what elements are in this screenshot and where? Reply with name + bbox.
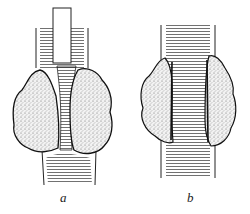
panel-a-label: a	[60, 190, 67, 206]
panel-a-illustration	[0, 0, 125, 214]
panel-b-label: b	[187, 190, 194, 206]
panel-b-illustration	[125, 0, 250, 214]
